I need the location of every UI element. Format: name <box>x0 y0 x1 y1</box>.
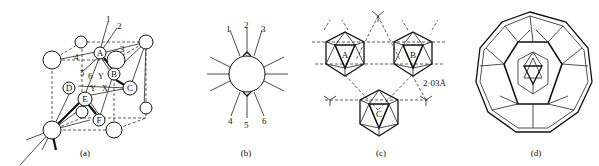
panel-b: 1 2 3 4 5 6 (b) <box>207 20 288 158</box>
bond-label-1: 1 <box>226 24 231 34</box>
atom-label-e: E <box>82 94 88 104</box>
bond-label-4: 4 <box>74 52 79 62</box>
icosahedron-label-c: C <box>376 109 382 119</box>
caption-c: (c) <box>376 148 386 158</box>
axis-label-y2: Y <box>90 84 96 93</box>
middle-shell <box>504 42 562 104</box>
bond-label-4: 4 <box>228 116 233 126</box>
atom-label-f: F <box>96 115 101 125</box>
atom-label-a: A <box>97 48 104 58</box>
bond-label-1: 1 <box>106 14 111 24</box>
icosahedron-label-b: B <box>410 50 416 60</box>
central-atom <box>229 56 265 92</box>
inner-icosahedron <box>518 52 548 94</box>
caption-a: (a) <box>80 148 90 158</box>
bond-label-2: 2 <box>244 20 249 30</box>
bond-label-2: 2 <box>117 21 122 31</box>
bond-label-3: 3 <box>261 24 266 34</box>
bond-label-3: 3 <box>120 44 125 54</box>
panel-d: (d) <box>476 12 592 158</box>
panel-c: A B C <box>312 11 446 158</box>
outer-shell <box>476 12 592 132</box>
atom-label-c: C <box>127 83 133 93</box>
atom-label-d: D <box>66 83 73 93</box>
panel-a: A B C D E F 1 2 3 4 5 6 Y X Y (a) <box>20 14 153 165</box>
atom-label-b: B <box>111 69 117 79</box>
dashed-network <box>312 16 445 110</box>
bond-label-5: 5 <box>244 120 249 130</box>
caption-d: (d) <box>531 148 542 158</box>
icosahedron-label-a: A <box>342 50 349 60</box>
axis-label-x: X <box>102 84 108 93</box>
distance-label: 2·03Å <box>423 78 446 88</box>
bond-label-5: 5 <box>80 68 85 78</box>
axis-label-y1: Y <box>98 72 104 81</box>
caption-b: (b) <box>241 148 252 158</box>
bond-label-6: 6 <box>262 116 267 126</box>
structure-figure: A B C D E F 1 2 3 4 5 6 Y X Y (a) <box>0 0 599 166</box>
bond-label-6: 6 <box>88 71 93 81</box>
